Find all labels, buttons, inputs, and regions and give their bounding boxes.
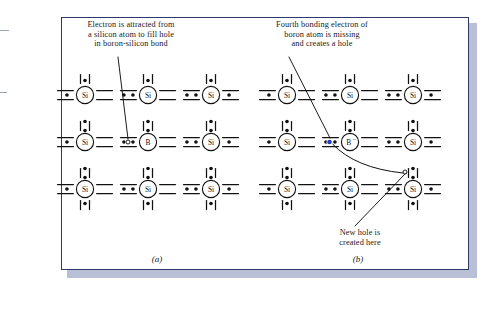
- bond-electron: [285, 129, 289, 133]
- bond-electron: [65, 93, 69, 97]
- bond-electron: [285, 202, 289, 206]
- bond-electron: [185, 140, 189, 144]
- bond-electron: [429, 187, 433, 191]
- bond-electron: [333, 187, 337, 191]
- bond-electron: [194, 93, 198, 97]
- bond-electron: [209, 176, 213, 180]
- atom-label-B: B: [146, 138, 151, 147]
- hole-open-circle: [126, 140, 130, 144]
- atom-label-Si: Si: [145, 91, 151, 100]
- atom-label-Si: Si: [82, 91, 88, 100]
- bond-electron: [83, 176, 87, 180]
- atom-label-Si: Si: [284, 138, 290, 147]
- atom-label-B: B: [346, 138, 351, 147]
- bond-electron: [146, 167, 150, 171]
- bond-electron: [285, 120, 289, 124]
- atom-label-Si: Si: [82, 185, 88, 194]
- bond-electron: [429, 93, 433, 97]
- bond-electron: [411, 176, 415, 180]
- new-hole-open-circle: [403, 170, 407, 174]
- leader-line-new-hole: [355, 174, 405, 226]
- atom-label-Si: Si: [82, 138, 88, 147]
- leader-line-a: [118, 57, 128, 139]
- bond-electron: [396, 93, 400, 97]
- bond-electron: [348, 176, 352, 180]
- bond-electron: [411, 167, 415, 171]
- bond-electron: [146, 79, 150, 83]
- bond-electron: [209, 129, 213, 133]
- bond-electron: [411, 202, 415, 206]
- bond-electron: [348, 202, 352, 206]
- bond-electron: [324, 93, 328, 97]
- bond-electron: [348, 167, 352, 171]
- atom-label-Si: Si: [410, 91, 416, 100]
- bond-electron: [429, 140, 433, 144]
- bond-electron: [411, 120, 415, 124]
- bond-electron: [131, 187, 135, 191]
- bond-electron: [267, 93, 271, 97]
- moved-electron: [327, 140, 332, 145]
- atom-label-Si: Si: [208, 185, 214, 194]
- bond-electron: [83, 120, 87, 124]
- bond-electron: [285, 167, 289, 171]
- bond-electron: [227, 187, 231, 191]
- bond-electron: [146, 176, 150, 180]
- bond-electron: [83, 202, 87, 206]
- atom-label-Si: Si: [284, 185, 290, 194]
- bond-electron: [324, 187, 328, 191]
- bond-electron: [348, 120, 352, 124]
- boron-ion-superscript-minus: –: [352, 136, 356, 142]
- bond-electron: [333, 140, 337, 144]
- bond-electron: [131, 140, 135, 144]
- bond-electron: [396, 140, 400, 144]
- bond-electron: [348, 129, 352, 133]
- bond-electron: [267, 187, 271, 191]
- bond-electron: [227, 93, 231, 97]
- bond-electron: [146, 129, 150, 133]
- bond-electron: [131, 93, 135, 97]
- bond-electron: [83, 79, 87, 83]
- bond-electron: [267, 140, 271, 144]
- atom-label-Si: Si: [145, 185, 151, 194]
- atom-label-Si: Si: [208, 138, 214, 147]
- figure-page: Electron is attracted froma silicon atom…: [0, 0, 483, 309]
- bond-electron: [209, 79, 213, 83]
- bond-electron: [83, 129, 87, 133]
- bond-electron: [194, 140, 198, 144]
- bond-electron: [387, 93, 391, 97]
- atom-label-Si: Si: [410, 138, 416, 147]
- bond-electron: [209, 202, 213, 206]
- bond-electron: [285, 176, 289, 180]
- bond-electron: [146, 120, 150, 124]
- atom-label-Si: Si: [347, 91, 353, 100]
- lattice-drawing: SiSiSiSiBSiSiSiSi SiSiSiSiB–SiSiSiSi: [0, 0, 483, 309]
- bond-electron: [122, 140, 126, 144]
- bond-electron: [209, 120, 213, 124]
- bond-electron: [387, 140, 391, 144]
- bond-electron: [65, 140, 69, 144]
- bond-electron: [285, 79, 289, 83]
- bond-electron: [411, 129, 415, 133]
- bond-electron: [396, 187, 400, 191]
- bond-electron: [185, 93, 189, 97]
- bond-electron: [209, 167, 213, 171]
- atom-label-Si: Si: [208, 91, 214, 100]
- atom-label-Si: Si: [284, 91, 290, 100]
- bond-electron: [122, 187, 126, 191]
- bond-electron: [83, 167, 87, 171]
- bond-electron: [411, 79, 415, 83]
- bond-electron: [348, 79, 352, 83]
- leader-lines: [118, 57, 405, 226]
- atom-label-Si: Si: [410, 185, 416, 194]
- lattice-panel-b: SiSiSiSiB–SiSiSiSi: [260, 75, 441, 210]
- bond-electron: [227, 140, 231, 144]
- bond-electron: [146, 202, 150, 206]
- bond-electron: [185, 187, 189, 191]
- bond-electron: [65, 187, 69, 191]
- bond-electron: [333, 93, 337, 97]
- atom-label-Si: Si: [347, 185, 353, 194]
- bond-electron: [194, 187, 198, 191]
- lattice-panel-a: SiSiSiSiBSiSiSiSi: [58, 75, 239, 210]
- electron-path: [333, 144, 404, 173]
